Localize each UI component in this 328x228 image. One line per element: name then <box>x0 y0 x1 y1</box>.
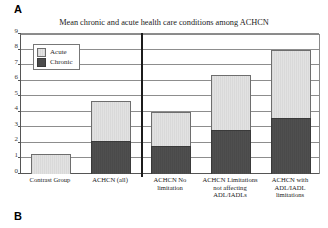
figure-chart: Mean chronic and acute health care condi… <box>0 18 328 208</box>
panel-label-a: A <box>14 3 22 15</box>
x-axis-category-label: ACHCN No limitation <box>140 176 200 191</box>
bar-segment-chronic <box>151 146 191 174</box>
bar-segment-acute <box>31 154 71 174</box>
bar-group <box>211 75 251 174</box>
bar-group <box>271 50 311 174</box>
chart-title: Mean chronic and acute health care condi… <box>0 18 328 27</box>
bar-segment-acute <box>151 112 191 146</box>
bar-segment-chronic <box>211 130 251 174</box>
y-tick-label: 9 <box>15 27 19 34</box>
panel-label-b: B <box>14 210 22 222</box>
legend-swatch-chronic-icon <box>37 58 46 67</box>
x-axis-category-label: ACHCN Limitations not affecting ADL/IADL… <box>200 176 260 199</box>
legend-item-chronic: Chronic <box>37 57 73 67</box>
bar-group <box>151 112 191 174</box>
legend-item-acute: Acute <box>37 47 73 57</box>
bar-segment-chronic <box>271 118 311 174</box>
y-tick-label: 3 <box>15 120 19 127</box>
y-tick-label: 1 <box>15 151 19 158</box>
gridline <box>21 33 319 34</box>
legend-label-chronic: Chronic <box>50 59 73 66</box>
y-tick-label: 5 <box>15 89 19 96</box>
chart-legend: Acute Chronic <box>33 44 80 70</box>
bar-segment-acute <box>271 50 311 118</box>
plot-area: 0123456789 Acute Chronic <box>20 34 320 174</box>
x-axis-category-labels: Contrast GroupACHCN (all)ACHCN No limita… <box>20 176 320 210</box>
legend-label-acute: Acute <box>50 49 67 56</box>
bar-segment-chronic <box>91 141 131 174</box>
legend-swatch-acute-icon <box>37 48 46 57</box>
y-tick-label: 8 <box>15 43 19 50</box>
y-tick-label: 2 <box>15 136 19 143</box>
y-tick-label: 4 <box>15 105 19 112</box>
bar-segment-acute <box>91 101 131 141</box>
y-tick-label: 7 <box>15 58 19 65</box>
bar-group <box>31 154 71 174</box>
x-axis-category-label: ACHCN with ADL/IADL limitations <box>260 176 320 199</box>
y-tick-label: 6 <box>15 74 19 81</box>
bar-group <box>91 101 131 174</box>
x-axis-category-label: Contrast Group <box>20 176 80 184</box>
bar-segment-acute <box>211 75 251 129</box>
x-axis-category-label: ACHCN (all) <box>80 176 140 184</box>
y-tick-label: 0 <box>15 167 19 174</box>
group-divider-line <box>141 33 143 177</box>
